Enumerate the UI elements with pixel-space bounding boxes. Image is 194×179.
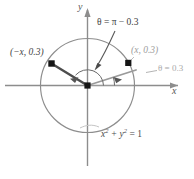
label-point-right: (x, 0.3) (131, 46, 158, 56)
y-axis-arrowhead (84, 8, 90, 17)
label-theta-reference: θ = 0.3 (158, 64, 183, 73)
angle-arc-reference-arrowhead (114, 77, 122, 83)
label-circle-equation: x2 + y2 = 1 (101, 128, 142, 140)
label-axis-y: y (78, 2, 82, 12)
point-marker-right (125, 60, 131, 66)
point-marker-origin (84, 82, 90, 88)
leader-arrow-supplement (97, 31, 115, 66)
ray-theta-reference (88, 70, 137, 86)
circle-eq-tail: = 1 (127, 129, 142, 139)
circle-eq-plus-y: + y (108, 129, 123, 139)
ray-theta-supplement (52, 64, 88, 86)
leader-arrow-supplement-head (95, 63, 102, 71)
label-point-left: (−x, 0.3) (10, 48, 44, 58)
figure-container: θ = π − 0.3 θ = 0.3 (−x, 0.3) (x, 0.3) x… (0, 0, 194, 179)
leader-line-circle-equation (80, 125, 99, 128)
leader-arrow-reference (146, 71, 157, 73)
label-theta-supplement: θ = π − 0.3 (97, 18, 138, 28)
point-marker-left (48, 60, 54, 66)
label-axis-x: x (172, 86, 176, 96)
